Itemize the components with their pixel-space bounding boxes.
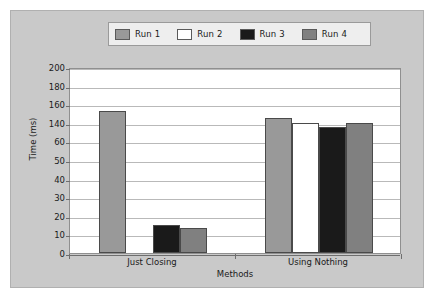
legend-swatch-icon	[240, 29, 255, 40]
y-axis-tick-label: 30	[25, 193, 65, 203]
y-axis-tick-label: 50	[25, 156, 65, 166]
bar-run-3	[153, 225, 180, 253]
bar-run-2	[292, 123, 319, 253]
legend-label: Run 1	[135, 29, 160, 39]
chart-canvas: Run 1 Run 2 Run 3 Run 4 Time (ms) Method…	[10, 10, 424, 288]
bar-run-3	[319, 127, 346, 253]
legend-swatch-icon	[302, 29, 317, 40]
x-axis-category-label: Just Closing	[127, 257, 176, 267]
y-axis-tick-label: 10	[25, 230, 65, 240]
y-axis-tick-label: 140	[25, 119, 65, 129]
bar-run-4	[346, 123, 373, 253]
x-axis-tick-mark	[235, 254, 236, 259]
gridline	[70, 88, 400, 89]
legend-item-run-3: Run 3	[240, 29, 302, 40]
y-axis-tick-label: 180	[25, 82, 65, 92]
legend-label: Run 2	[197, 29, 222, 39]
y-axis-tick-label: 200	[25, 63, 65, 73]
gridline	[70, 69, 400, 70]
x-axis-title: Methods	[69, 269, 401, 279]
legend-item-run-1: Run 1	[115, 29, 177, 40]
y-axis-tick-mark	[66, 106, 70, 107]
x-axis-tick-mark	[401, 254, 402, 259]
y-axis-tick-mark	[66, 236, 70, 237]
y-axis-tick-mark	[66, 199, 70, 200]
x-axis-category-label: Using Nothing	[288, 257, 348, 267]
legend-item-run-2: Run 2	[177, 29, 239, 40]
gridline	[70, 106, 400, 107]
y-axis-tick-mark	[66, 162, 70, 163]
y-axis-tick-mark	[66, 181, 70, 182]
legend-label: Run 4	[322, 29, 347, 39]
y-axis-tick-label: 160	[25, 100, 65, 110]
chart-legend: Run 1 Run 2 Run 3 Run 4	[108, 22, 371, 46]
y-axis-tick-mark	[66, 125, 70, 126]
plot-area-wrapper	[69, 68, 401, 254]
y-axis-tick-mark	[66, 69, 70, 70]
y-axis-tick-label: 60	[25, 137, 65, 147]
legend-item-run-4: Run 4	[302, 29, 364, 40]
y-axis-tick-label: 40	[25, 175, 65, 185]
x-axis-tick-mark	[69, 254, 70, 259]
y-axis-tick-mark	[66, 218, 70, 219]
plot-area	[69, 68, 401, 254]
legend-swatch-icon	[177, 29, 192, 40]
y-axis-tick-mark	[66, 143, 70, 144]
y-axis-tick-label: 20	[25, 212, 65, 222]
bar-run-4	[180, 228, 207, 253]
y-axis-tick-mark	[66, 88, 70, 89]
legend-swatch-icon	[115, 29, 130, 40]
bar-run-1	[99, 111, 126, 253]
bar-run-1	[265, 118, 292, 253]
y-axis-tick-label: 0	[25, 249, 65, 259]
legend-label: Run 3	[260, 29, 285, 39]
